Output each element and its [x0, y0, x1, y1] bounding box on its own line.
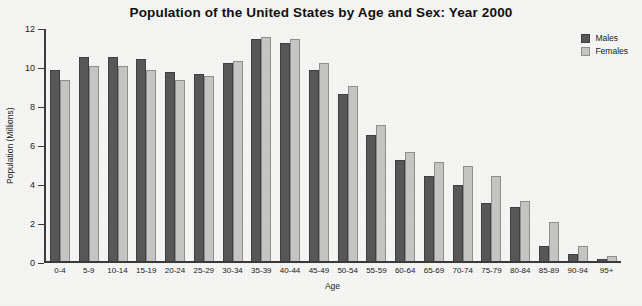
- bar-group: [46, 29, 75, 261]
- bar-females-90-94: [578, 246, 588, 262]
- bar-group: [592, 29, 621, 261]
- bar-males-10-14: [108, 57, 118, 262]
- y-axis-tick: [38, 68, 44, 69]
- bar-males-70-74: [453, 185, 463, 261]
- x-axis-tick-label: 60-64: [391, 266, 420, 275]
- bar-females-40-44: [290, 39, 300, 261]
- bar-females-35-39: [261, 37, 271, 261]
- bar-series-group: [46, 29, 621, 261]
- chart-container: Population of the United States by Age a…: [0, 0, 642, 306]
- plot-area: 024681012: [44, 29, 621, 263]
- y-axis-tick-label: 2: [30, 219, 35, 229]
- x-axis-tick-label: 50-54: [333, 266, 362, 275]
- x-axis-tick-label: 40-44: [276, 266, 305, 275]
- x-axis-tick-label: 25-29: [189, 266, 218, 275]
- bar-group: [477, 29, 506, 261]
- bar-males-20-24: [165, 72, 175, 261]
- bar-females-15-19: [146, 70, 156, 261]
- bar-group: [535, 29, 564, 261]
- bar-females-75-79: [491, 176, 501, 262]
- bar-females-0-4: [60, 80, 70, 261]
- y-axis-tick-label: 10: [25, 63, 35, 73]
- bar-group: [103, 29, 132, 261]
- y-axis-tick: [38, 146, 44, 147]
- bar-group: [506, 29, 535, 261]
- x-axis-tick-label: 45-49: [304, 266, 333, 275]
- legend-swatch-males-icon: [581, 34, 590, 43]
- y-axis-tick: [38, 224, 44, 225]
- bar-females-95+: [607, 256, 617, 262]
- bar-males-15-19: [136, 59, 146, 262]
- y-axis-tick: [38, 29, 44, 30]
- y-axis-tick: [38, 185, 44, 186]
- y-axis-tick-label: 4: [30, 180, 35, 190]
- bar-group: [276, 29, 305, 261]
- x-axis-tick-label: 80-84: [506, 266, 535, 275]
- legend-item-males: Males: [581, 33, 628, 43]
- bar-females-65-69: [434, 162, 444, 261]
- bar-females-55-59: [376, 125, 386, 262]
- x-axis-tick-label: 65-69: [420, 266, 449, 275]
- bar-males-85-89: [539, 246, 549, 262]
- x-axis-title: Age: [44, 281, 621, 291]
- x-axis-tick-label: 90-94: [563, 266, 592, 275]
- bar-females-5-9: [89, 66, 99, 261]
- bar-males-75-79: [481, 203, 491, 262]
- bar-group: [448, 29, 477, 261]
- bar-males-5-9: [79, 57, 89, 262]
- x-axis-tick-labels: 0-45-910-1415-1920-2425-2930-3435-3940-4…: [46, 266, 621, 275]
- y-axis-tick: [38, 107, 44, 108]
- bar-males-60-64: [395, 160, 405, 261]
- bar-males-65-69: [424, 176, 434, 262]
- bar-group: [304, 29, 333, 261]
- bar-males-30-34: [223, 63, 233, 262]
- bar-group: [333, 29, 362, 261]
- bar-males-45-49: [309, 70, 319, 261]
- bar-males-90-94: [568, 254, 578, 262]
- y-axis-tick-label: 6: [30, 141, 35, 151]
- y-axis-tick-label: 12: [25, 24, 35, 34]
- bar-males-0-4: [50, 70, 60, 261]
- x-axis-line: [44, 261, 621, 263]
- bar-group: [161, 29, 190, 261]
- bar-females-80-84: [520, 201, 530, 261]
- x-axis-tick-label: 85-89: [535, 266, 564, 275]
- bar-group: [247, 29, 276, 261]
- bar-group: [74, 29, 103, 261]
- y-axis-tick-label: 0: [30, 258, 35, 268]
- bar-females-70-74: [463, 166, 473, 262]
- bar-females-10-14: [118, 66, 128, 261]
- bar-group: [563, 29, 592, 261]
- x-axis-tick-label: 35-39: [247, 266, 276, 275]
- bar-females-85-89: [549, 222, 559, 261]
- x-axis-tick-label: 0-4: [46, 266, 75, 275]
- legend-label-males: Males: [595, 33, 618, 43]
- legend-label-females: Females: [595, 46, 628, 56]
- chart-legend: Males Females: [581, 33, 628, 56]
- legend-swatch-females-icon: [581, 47, 590, 56]
- x-axis-tick-label: 95+: [592, 266, 621, 275]
- bar-group: [218, 29, 247, 261]
- bar-group: [420, 29, 449, 261]
- bar-males-80-84: [510, 207, 520, 262]
- bar-males-25-29: [194, 74, 204, 261]
- bar-females-60-64: [405, 152, 415, 261]
- x-axis-tick-label: 15-19: [132, 266, 161, 275]
- bar-males-35-39: [251, 39, 261, 261]
- bar-females-50-54: [348, 86, 358, 262]
- x-axis-tick-label: 70-74: [448, 266, 477, 275]
- bar-males-95+: [597, 259, 607, 261]
- bar-males-55-59: [366, 135, 376, 262]
- x-axis-tick-label: 20-24: [161, 266, 190, 275]
- bar-males-40-44: [280, 43, 290, 261]
- y-axis-tick: [38, 263, 44, 264]
- bar-females-45-49: [319, 63, 329, 262]
- legend-item-females: Females: [581, 46, 628, 56]
- bar-females-25-29: [204, 76, 214, 261]
- bar-group: [132, 29, 161, 261]
- y-axis-tick-label: 8: [30, 102, 35, 112]
- x-axis-tick-label: 10-14: [103, 266, 132, 275]
- bar-group: [189, 29, 218, 261]
- x-axis-tick-label: 75-79: [477, 266, 506, 275]
- bar-females-30-34: [233, 61, 243, 262]
